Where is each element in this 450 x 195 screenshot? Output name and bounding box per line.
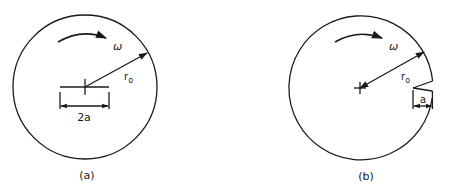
rotation-arrow-icon xyxy=(335,34,382,42)
omega-label: ω xyxy=(389,40,398,53)
radius-label: ro xyxy=(124,71,133,85)
figure-b: ω ro a (b) xyxy=(289,16,433,183)
omega-label: ω xyxy=(113,40,122,53)
radius-label: ro xyxy=(401,71,410,85)
crack-length-label: a xyxy=(420,94,426,105)
figure-caption-b: (b) xyxy=(358,170,374,183)
crack-length-label: 2a xyxy=(77,111,91,124)
rotation-arrow-icon xyxy=(58,34,106,42)
figure-caption-a: (a) xyxy=(79,169,94,182)
radius-line xyxy=(85,53,147,87)
diagram-canvas: ω ro 2a (a) ω ro a (b) xyxy=(0,0,450,195)
radius-line xyxy=(360,52,424,88)
figure-a: ω ro 2a (a) xyxy=(13,15,157,182)
edge-crack xyxy=(413,81,433,91)
